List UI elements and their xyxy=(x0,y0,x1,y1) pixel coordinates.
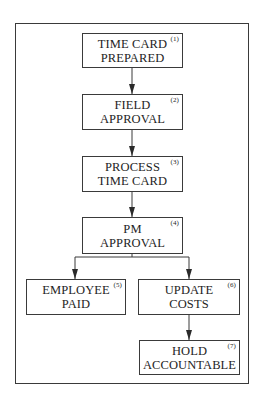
node-label-line: HOLD xyxy=(172,344,207,358)
node-label-line: APPROVAL xyxy=(100,112,165,126)
node-number: (2) xyxy=(171,96,179,104)
node-number: (6) xyxy=(228,281,236,289)
node-label-line: PM xyxy=(123,222,141,236)
node-label-line: FIELD xyxy=(115,98,151,112)
node-label-line: PROCESS xyxy=(105,160,160,174)
node-label-line: UPDATE xyxy=(165,283,214,297)
node-label-line: APPROVAL xyxy=(100,236,165,250)
node-number: (3) xyxy=(171,158,179,166)
diagram-frame xyxy=(15,23,249,384)
node-number: (1) xyxy=(171,35,179,43)
node-pm-approval: (4) PM APPROVAL xyxy=(82,217,183,254)
node-number: (5) xyxy=(114,281,122,289)
node-label-line: PAID xyxy=(62,297,90,311)
node-number: (7) xyxy=(228,342,236,350)
node-label-line: TIME CARD xyxy=(98,174,167,188)
node-label-line: EMPLOYEE xyxy=(42,283,109,297)
node-hold-accountable: (7) HOLD ACCOUNTABLE xyxy=(139,340,240,375)
node-label-line: COSTS xyxy=(169,297,208,311)
node-label-line: TIME CARD xyxy=(98,37,167,51)
node-time-card-prepared: (1) TIME CARD PREPARED xyxy=(82,33,183,68)
node-label-line: ACCOUNTABLE xyxy=(143,358,236,372)
node-process-time-card: (3) PROCESS TIME CARD xyxy=(82,156,183,192)
node-number: (4) xyxy=(171,219,179,227)
node-label-line: PREPARED xyxy=(101,51,165,65)
node-field-approval: (2) FIELD APPROVAL xyxy=(82,94,183,130)
node-employee-paid: (5) EMPLOYEE PAID xyxy=(26,279,126,315)
node-update-costs: (6) UPDATE COSTS xyxy=(138,279,240,315)
